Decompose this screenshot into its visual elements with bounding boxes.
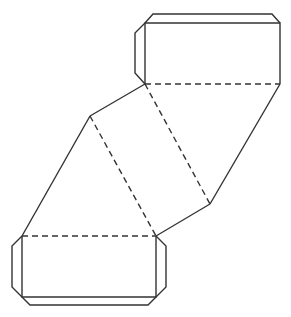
bottom-tab-lower <box>22 297 156 305</box>
bottom-tab-left <box>12 236 22 297</box>
bottom-tab-right <box>156 236 166 297</box>
right-slanted-edge <box>210 84 280 204</box>
bottom-rectangle-outline <box>22 236 156 297</box>
top-tab-left <box>135 23 145 84</box>
fold-line-diagonal-left <box>90 116 156 236</box>
top-tab-upper <box>145 14 280 23</box>
top-rectangle-outline <box>145 23 280 84</box>
fold-line-diagonal-right <box>145 84 210 204</box>
lower-right-edge <box>156 204 210 236</box>
upper-left-edge <box>90 84 145 116</box>
left-slanted-edge <box>22 116 90 236</box>
prism-net-diagram <box>0 0 291 317</box>
